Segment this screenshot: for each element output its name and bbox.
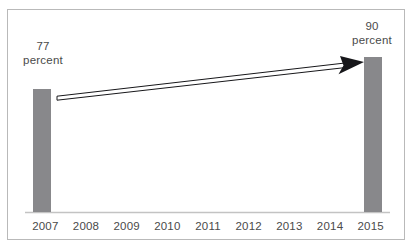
plot-area: 77 percent 90 percent 2007 2008 2009 201… [0,0,416,250]
trend-arrow-head [339,56,365,74]
x-tick-2009: 2009 [106,218,147,236]
chart-figure: 77 percent 90 percent 2007 2008 2009 201… [0,0,416,250]
x-tick-2013: 2013 [269,218,310,236]
value-callout-2007: 77 percent [9,39,77,67]
x-tick-2014: 2014 [310,218,351,236]
x-tick-2012: 2012 [228,218,269,236]
trend-arrow-shaft [57,63,345,100]
value-callout-2015-unit: percent [338,33,406,47]
x-tick-2008: 2008 [66,218,107,236]
x-axis-tick-labels: 2007 2008 2009 2010 2011 2012 2013 2014 … [25,218,391,236]
value-callout-2015: 90 percent [338,19,406,47]
x-tick-2007: 2007 [25,218,66,236]
value-callout-2007-unit: percent [9,53,77,67]
value-callout-2007-number: 77 [9,39,77,53]
value-callout-2015-number: 90 [338,19,406,33]
bar-2015 [364,57,382,212]
bar-2007 [33,89,51,212]
x-tick-2010: 2010 [147,218,188,236]
x-tick-2015: 2015 [350,218,391,236]
x-tick-2011: 2011 [188,218,229,236]
